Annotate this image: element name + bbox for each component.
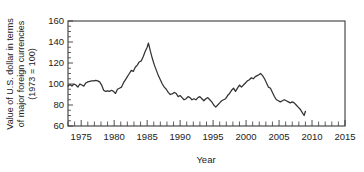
data-series-line bbox=[68, 43, 305, 115]
y-tick-label-120: 120 bbox=[48, 57, 64, 68]
y-axis-title-line2: of major foreign currencies bbox=[16, 20, 26, 127]
x-tick-label-1975: 1975 bbox=[71, 131, 92, 142]
y-axis-title: Value of U.S. dollar in terms of major f… bbox=[5, 18, 37, 130]
y-axis-tick-labels: 6080100120140160 bbox=[48, 15, 64, 131]
x-tick-label-2015: 2015 bbox=[334, 131, 355, 142]
x-tick-label-2010: 2010 bbox=[301, 131, 322, 142]
x-tick-label-2000: 2000 bbox=[236, 131, 257, 142]
y-tick-label-60: 60 bbox=[53, 120, 64, 131]
dollar-index-line-chart: 6080100120140160 19751980198519901995200… bbox=[0, 0, 364, 172]
y-tick-label-80: 80 bbox=[53, 99, 64, 110]
x-tick-label-1980: 1980 bbox=[104, 131, 125, 142]
x-tick-label-1990: 1990 bbox=[170, 131, 191, 142]
x-axis-title: Year bbox=[196, 154, 215, 165]
x-tick-label-1995: 1995 bbox=[203, 131, 224, 142]
y-tick-label-100: 100 bbox=[48, 78, 64, 89]
x-axis-tick-labels: 197519801985199019952000200520102015 bbox=[71, 131, 356, 142]
x-tick-label-1985: 1985 bbox=[137, 131, 158, 142]
plot-area-frame bbox=[68, 21, 345, 126]
chart-container: 6080100120140160 19751980198519901995200… bbox=[0, 0, 364, 172]
x-tick-label-2005: 2005 bbox=[268, 131, 289, 142]
y-axis-title-line1: Value of U.S. dollar in terms bbox=[5, 18, 15, 130]
y-axis-title-line3: (1973 = 100) bbox=[27, 48, 37, 99]
y-tick-label-140: 140 bbox=[48, 36, 64, 47]
x-axis-minor-ticks bbox=[68, 120, 345, 126]
y-tick-label-160: 160 bbox=[48, 15, 64, 26]
